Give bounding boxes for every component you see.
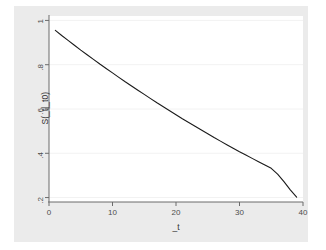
y-tick-label-1: .4 bbox=[37, 152, 45, 166]
y-tick-label-3: .8 bbox=[37, 64, 45, 78]
x-tick-label-3: 30 bbox=[228, 209, 252, 217]
x-tick-label-4: 40 bbox=[291, 209, 315, 217]
gridlines bbox=[49, 20, 303, 197]
survival-plot-figure: .2.4.6.81 010203040 S(_t|_t0) _t bbox=[0, 0, 326, 250]
x-tick-label-1: 10 bbox=[101, 209, 125, 217]
x-tick-label-2: 20 bbox=[164, 209, 188, 217]
y-axis-title: S(_t|_t0) bbox=[41, 78, 50, 138]
data-series-group bbox=[55, 30, 296, 197]
x-tick-label-0: 0 bbox=[37, 209, 61, 217]
x-axis-title: _t bbox=[49, 223, 303, 232]
series-line-0 bbox=[55, 30, 296, 197]
y-tick-label-4: 1 bbox=[37, 19, 45, 33]
